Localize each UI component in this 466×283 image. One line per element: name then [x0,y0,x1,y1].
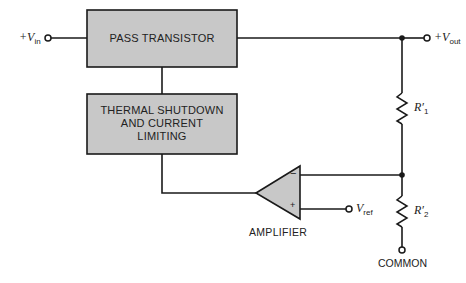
vout-label: +Vout [434,30,461,46]
pass-transistor-label: PASS TRANSISTOR [87,32,237,45]
vref-terminal [346,206,352,212]
vref-label: Vref [356,201,373,217]
vin-label: +Vin [19,30,41,46]
vout-terminal [424,35,430,41]
resistor-r1 [397,93,407,124]
inverting-input-sign: − [290,167,296,179]
common-label: COMMON [378,257,427,269]
r1-label: R′1 [414,100,428,116]
r2-label: R′2 [414,203,428,219]
noninverting-input-sign: + [290,200,295,210]
resistor-r2 [397,196,407,227]
common-terminal [399,247,405,253]
vin-terminal [45,35,51,41]
amplifier-label: AMPLIFIER [249,226,307,238]
thermal-shutdown-label: THERMAL SHUTDOWN AND CURRENT LIMITING [87,104,237,143]
